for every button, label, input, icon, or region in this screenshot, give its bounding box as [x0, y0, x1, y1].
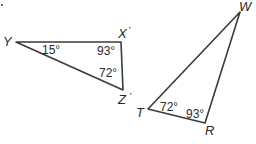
stray-mark-lower: [130, 93, 132, 95]
vertex-label-r: R: [205, 123, 214, 138]
stray-dot: [1, 4, 3, 6]
angle-label-y: 15°: [42, 43, 60, 57]
geometry-diagram: Y X Z 15° 93° 72° W T R 72° 93°: [0, 0, 256, 144]
vertex-label-y: Y: [3, 34, 13, 49]
triangle-xyz: Y X Z 15° 93° 72°: [3, 26, 128, 107]
angle-label-t: 72°: [160, 100, 178, 114]
triangle-wrt: W T R 72° 93°: [136, 0, 253, 138]
vertex-label-z: Z: [117, 92, 127, 107]
vertex-label-t: T: [136, 105, 145, 120]
angle-label-z: 72°: [99, 66, 117, 80]
vertex-label-w: W: [239, 0, 253, 14]
angle-label-x: 93°: [97, 44, 115, 58]
stray-mark-upper: [129, 27, 131, 29]
angle-label-r: 93°: [186, 107, 204, 121]
vertex-label-x: X: [117, 26, 128, 41]
